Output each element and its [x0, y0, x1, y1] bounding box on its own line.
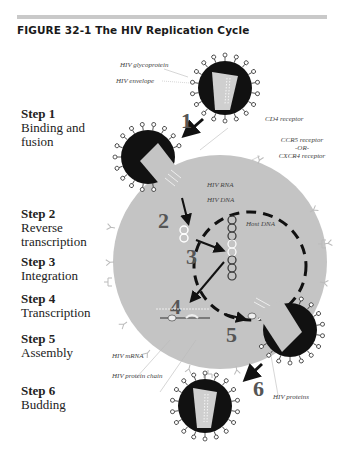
numeral-6: 6 — [253, 376, 264, 401]
label-hiv-proteins: HIV proteins — [273, 393, 309, 401]
numeral-3: 3 — [186, 244, 197, 269]
numeral-2: 2 — [158, 208, 169, 233]
label-cxcr4-receptor: CXCR4 receptor — [272, 152, 332, 160]
label-hiv-protein-chain: HIV protein chain — [112, 372, 163, 380]
label-hiv-glycoprotein: HIV glycoprotein — [120, 61, 168, 69]
label-hiv-rna: HIV RNA — [207, 181, 234, 189]
virion-released — [170, 371, 240, 441]
label-hiv-dna: HIV DNA — [207, 196, 234, 204]
label-ccr5-receptor: CCR5 receptor — [272, 136, 332, 144]
numeral-1: 1 — [181, 108, 192, 133]
numeral-5: 5 — [226, 322, 237, 347]
label-host-dna: Host DNA — [246, 220, 275, 228]
label-cd4-receptor: CD4 receptor — [265, 115, 303, 123]
label-hiv-mrna: HIV mRNA — [112, 352, 144, 360]
hiv-replication-diagram: 1 2 3 — [0, 0, 343, 451]
label-hiv-envelope: HIV envelope — [116, 77, 154, 85]
virion-free — [190, 53, 260, 123]
label-or: -OR- — [272, 144, 332, 152]
